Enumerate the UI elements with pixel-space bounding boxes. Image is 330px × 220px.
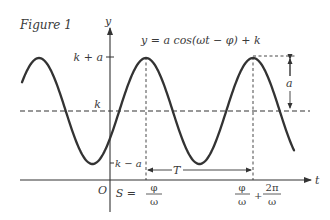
origin-label: O xyxy=(98,184,107,197)
end-plus: + xyxy=(254,190,262,201)
end-numerator-1: φ xyxy=(238,182,245,193)
figure-title: Figure 1 xyxy=(19,18,72,32)
y-tick-k-minus-a: k − a xyxy=(115,158,142,169)
end-numerator-2: 2π xyxy=(266,182,279,193)
end-denominator-1: ω xyxy=(238,196,246,207)
y-tick-k-plus-a: k + a xyxy=(74,51,103,64)
end-denominator-2: ω xyxy=(268,196,276,207)
amplitude-label: a xyxy=(286,77,293,90)
y-tick-k: k xyxy=(94,98,101,111)
period-label: T xyxy=(173,164,182,177)
equation-label: y = a cos(ωt − φ) + k xyxy=(140,34,261,47)
x-tick-shift: S = φ ω xyxy=(116,182,162,207)
shift-prefix: S = xyxy=(116,187,136,200)
y-axis-label: y xyxy=(104,15,112,28)
t-axis-label: t xyxy=(315,174,320,187)
shift-numerator: φ xyxy=(150,182,157,193)
figure-canvas: Figure 1 a T y = a cos(ωt − φ) + k y t O… xyxy=(0,0,330,220)
x-tick-period-end: φ ω + 2π ω xyxy=(235,182,281,207)
shift-denominator: ω xyxy=(150,196,158,207)
